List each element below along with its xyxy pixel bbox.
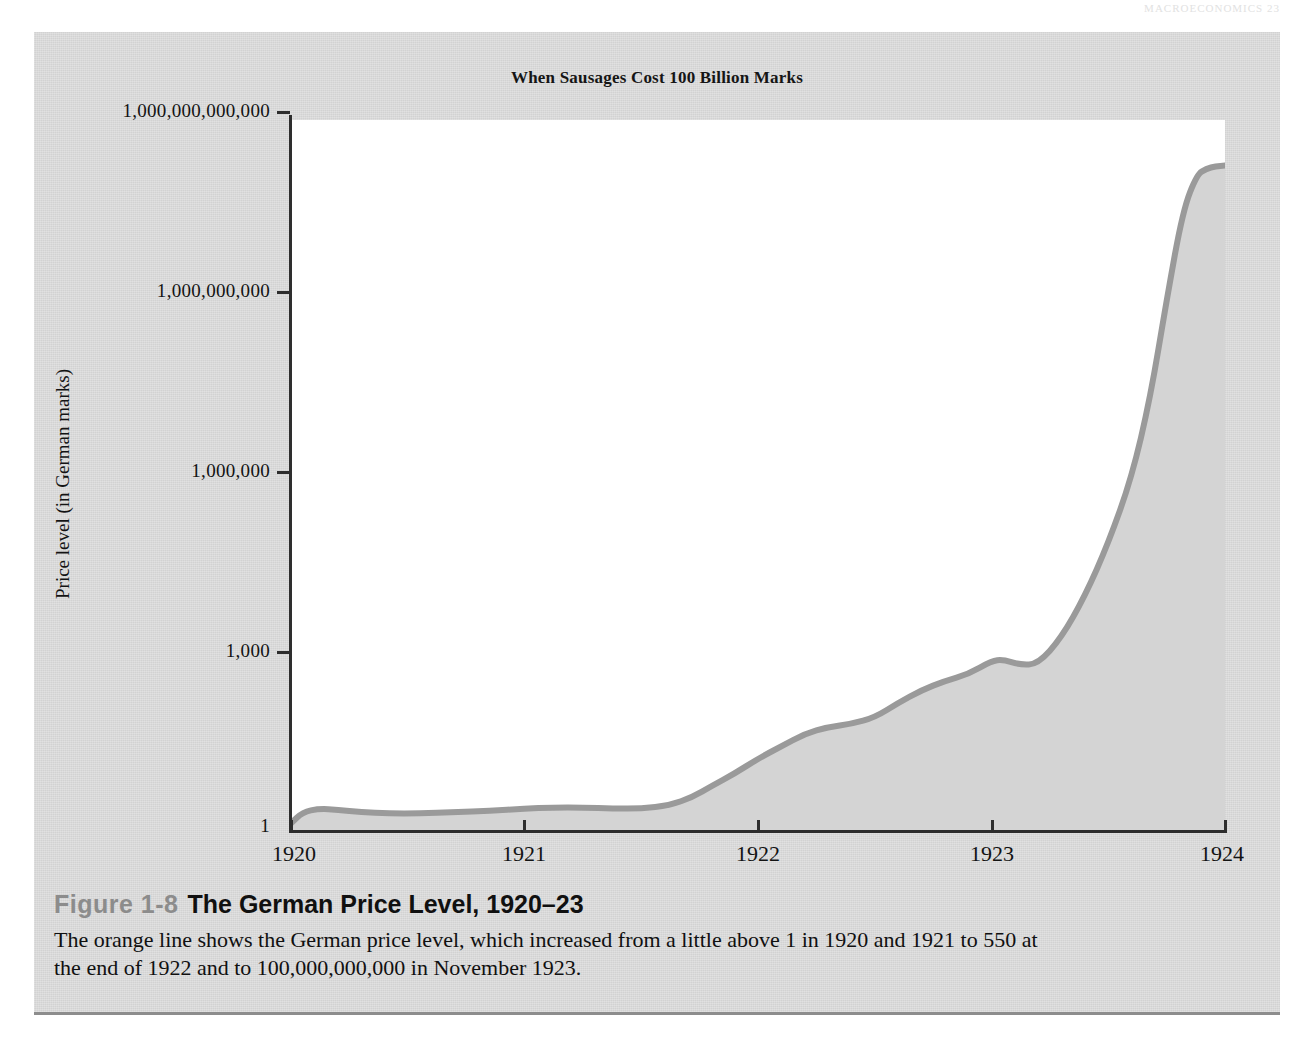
y-tick-1e3	[277, 651, 290, 654]
area-fill	[291, 166, 1225, 830]
y-tick-label-1e12: 1,000,000,000,000	[122, 100, 270, 122]
y-tick-label-1e3: 1,000	[226, 640, 270, 662]
plot-area	[291, 120, 1225, 830]
y-axis-title: Price level (in German marks)	[52, 324, 74, 644]
x-tick-1922	[757, 820, 760, 832]
figure-caption: Figure 1-8The German Price Level, 1920–2…	[54, 890, 1234, 983]
x-tick-label-1920: 1920	[272, 841, 316, 867]
x-tick-1924	[1224, 820, 1227, 832]
caption-figure-number: Figure 1-8	[54, 890, 178, 918]
x-tick-1920	[290, 820, 293, 832]
x-tick-label-1924: 1924	[1200, 841, 1244, 867]
y-tick-label-1e6: 1,000,000	[191, 460, 270, 482]
x-tick-label-1922: 1922	[736, 841, 780, 867]
y-tick-1e6	[277, 471, 290, 474]
y-axis-line	[289, 115, 292, 833]
caption-body: The orange line shows the German price l…	[54, 926, 1054, 983]
y-tick-label-1: 1	[260, 815, 270, 837]
caption-heading: Figure 1-8The German Price Level, 1920–2…	[54, 890, 1234, 919]
x-tick-1921	[523, 820, 526, 832]
x-tick-label-1923: 1923	[970, 841, 1014, 867]
y-tick-1e9	[277, 291, 290, 294]
chart-title: When Sausages Cost 100 Billion Marks	[0, 68, 1314, 88]
x-tick-label-1921: 1921	[502, 841, 546, 867]
x-tick-1923	[991, 820, 994, 832]
y-tick-1e12	[277, 111, 290, 114]
figure-page: MACROECONOMICS 23 When Sausages Cost 100…	[0, 0, 1314, 1057]
figure-bottom-divider	[34, 1012, 1280, 1015]
caption-figure-title: The German Price Level, 1920–23	[187, 890, 583, 918]
price-level-area-chart	[291, 120, 1225, 830]
y-tick-label-1e9: 1,000,000,000	[157, 280, 270, 302]
running-head: MACROECONOMICS 23	[1144, 2, 1280, 12]
